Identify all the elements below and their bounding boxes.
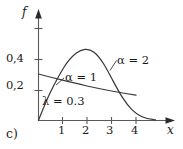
y-tick-label-02: 0,2 (6, 80, 24, 92)
y-axis-label: f (22, 6, 26, 18)
x-tick-label-1: 1 (58, 125, 65, 137)
alpha2-leader-line (110, 61, 117, 71)
lambda-annotation: λ = 0.3 (42, 96, 85, 108)
x-tick-label-3: 3 (106, 125, 113, 137)
panel-label: c) (6, 128, 18, 141)
y-tick-label-04: 0,4 (6, 53, 24, 65)
x-tick-label-2: 2 (82, 125, 89, 137)
x-axis-label: x (167, 124, 174, 136)
x-tick-label-4: 4 (131, 125, 138, 137)
curve-label-alpha-1: α = 1 (65, 72, 97, 84)
curve-label-alpha-2: α = 2 (117, 55, 149, 67)
figure-panel-c: 0,4 0,2 1 2 3 4 f x α = 2 α = 1 λ = 0.3 … (0, 0, 183, 149)
y-axis-arrowhead (35, 9, 42, 19)
